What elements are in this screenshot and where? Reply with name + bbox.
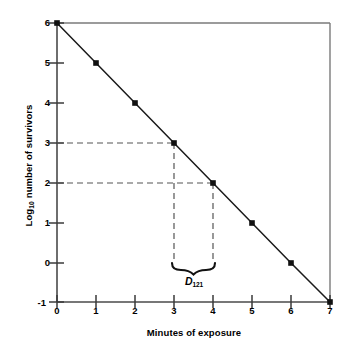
- data-point: [93, 60, 99, 66]
- data-point: [171, 140, 177, 146]
- d-value-symbol: D: [185, 275, 193, 287]
- d-value-subscript: 121: [193, 281, 203, 288]
- guide-lines: [57, 143, 213, 262]
- data-point: [249, 220, 255, 226]
- plot-svg: [0, 0, 356, 350]
- data-point: [288, 260, 294, 266]
- survivor-curve-figure: Log10 number of survivors Minutes of exp…: [0, 0, 356, 350]
- data-point: [54, 20, 60, 26]
- data-point: [327, 299, 333, 305]
- d-value-annotation: D121: [185, 275, 203, 287]
- data-point: [210, 180, 216, 186]
- data-point: [132, 100, 138, 106]
- d-value-brace: [172, 263, 215, 275]
